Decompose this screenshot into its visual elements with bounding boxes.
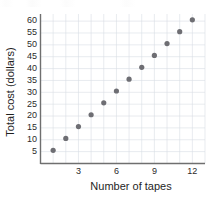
y-tick-label: 5 — [32, 146, 37, 156]
y-tick-label: 20 — [27, 110, 37, 120]
y-tick-labels-group: 51015202530354045505560 — [27, 15, 37, 156]
y-tick-label: 60 — [27, 15, 37, 25]
y-tick-label: 15 — [27, 122, 37, 132]
y-tick-label: 35 — [27, 75, 37, 85]
x-tick-labels-group: 36912 — [76, 166, 197, 176]
scatter-plot-figure: 51015202530354045505560 36912 Number of … — [0, 0, 211, 199]
x-tick-label: 9 — [152, 166, 157, 176]
data-point — [101, 100, 106, 105]
chart-canvas: 51015202530354045505560 36912 Number of … — [0, 0, 211, 199]
x-tick-label: 6 — [114, 166, 119, 176]
data-point — [126, 77, 131, 82]
data-point — [152, 53, 157, 58]
data-point — [114, 88, 119, 93]
data-point — [89, 112, 94, 117]
top-edge-artifact — [0, 0, 211, 7]
data-point — [164, 41, 169, 46]
data-point — [190, 17, 195, 22]
y-tick-label: 30 — [27, 87, 37, 97]
data-point — [63, 136, 68, 141]
y-tick-label: 10 — [27, 134, 37, 144]
data-point — [177, 29, 182, 34]
y-axis-title: Total cost (dollars) — [4, 47, 16, 136]
y-tick-label: 40 — [27, 63, 37, 73]
data-point — [76, 124, 81, 129]
data-points-group — [51, 17, 195, 153]
y-tick-label: 45 — [27, 51, 37, 61]
y-tick-label: 55 — [27, 27, 37, 37]
data-point — [139, 65, 144, 70]
data-point — [51, 148, 56, 153]
gridlines-group — [41, 14, 206, 164]
x-axis-title: Number of tapes — [90, 180, 172, 192]
x-tick-label: 12 — [187, 166, 197, 176]
y-tick-label: 50 — [27, 39, 37, 49]
x-tick-label: 3 — [76, 166, 81, 176]
y-tick-label: 25 — [27, 99, 37, 109]
